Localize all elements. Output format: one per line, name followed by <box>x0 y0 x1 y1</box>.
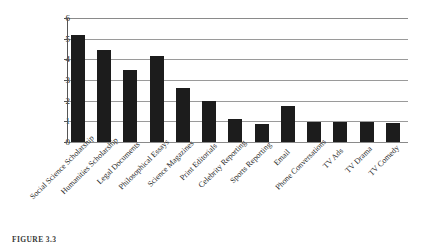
y-tick-mark <box>64 39 67 40</box>
chart-plot-area: 0123456 <box>0 0 428 160</box>
figure-caption: FIGURE 3.3 <box>12 236 56 246</box>
bar <box>71 35 85 142</box>
y-tick-mark <box>64 18 67 19</box>
x-tick-label: Phone Conversations <box>274 137 328 191</box>
y-tick-mark <box>64 101 67 102</box>
x-axis-tick-labels: Social Science ScholarshipHumanities Sch… <box>0 142 428 228</box>
bar <box>150 56 164 142</box>
bar <box>123 70 137 142</box>
y-tick-mark <box>64 59 67 60</box>
bar <box>360 122 374 142</box>
x-tick-label: Celebrity Reporting <box>197 138 248 189</box>
bar <box>333 122 347 142</box>
figure-container: 0123456 Social Science ScholarshipHumani… <box>0 0 428 246</box>
bar <box>386 123 400 142</box>
y-tick-mark <box>64 121 67 122</box>
y-tick-mark <box>64 80 67 81</box>
bar <box>281 106 295 142</box>
x-tick-label: Email <box>272 148 292 168</box>
bar <box>97 50 111 142</box>
x-tick-label: Science Magazines <box>146 139 196 189</box>
bar <box>176 88 190 142</box>
bar <box>202 101 216 142</box>
x-tick-label: TV Ads <box>321 146 345 170</box>
